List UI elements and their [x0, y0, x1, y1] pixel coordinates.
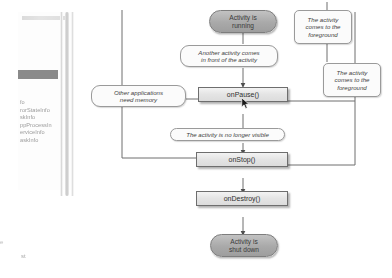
callout-need-memory-label: Other applications need memory	[114, 89, 163, 104]
mouse-cursor-icon	[241, 97, 250, 110]
callout-need-memory[interactable]: Other applications need memory	[91, 85, 186, 107]
callout-no-longer-visible-label: The activity is no longer visible	[186, 131, 269, 138]
callout-no-longer-visible[interactable]: The activity is no longer visible	[170, 128, 285, 141]
node-activity-shut-down[interactable]: Activity is shut down	[210, 234, 278, 257]
node-ondestroy[interactable]: onDestroy()	[196, 191, 288, 206]
node-activity-shut-down-label: Activity is shut down	[229, 238, 259, 253]
node-activity-running-label: Activity is running	[229, 14, 256, 29]
screenshot-root: fo rorStateInfo skInfo ppProcessIn ervic…	[0, 0, 392, 278]
callout-foreground-right[interactable]: The activity comes to the foreground	[323, 63, 381, 97]
node-activity-running[interactable]: Activity is running	[209, 10, 277, 33]
node-onstop-label: onStop()	[229, 156, 256, 163]
callout-foreground-top[interactable]: The activity comes to the foreground	[294, 10, 352, 44]
node-ondestroy-label: onDestroy()	[224, 195, 261, 202]
callout-another-activity-label: Another activity comes in front of the a…	[198, 49, 259, 64]
callout-another-activity[interactable]: Another activity comes in front of the a…	[180, 45, 278, 67]
callout-foreground-right-label: The activity comes to the foreground	[335, 69, 370, 91]
node-onstop[interactable]: onStop()	[196, 152, 288, 167]
callout-foreground-top-label: The activity comes to the foreground	[306, 16, 341, 38]
